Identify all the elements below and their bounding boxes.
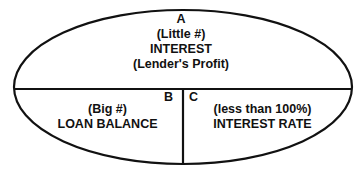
section-b-loan-balance: (Big #) LOAN BALANCE (40, 102, 175, 132)
section-b-subtitle: (Big #) (40, 102, 175, 117)
section-b-title: LOAN BALANCE (40, 117, 175, 132)
section-a-title: INTEREST (0, 42, 362, 57)
section-c-interest-rate: (less than 100%) INTEREST RATE (195, 102, 330, 132)
section-c-title: INTEREST RATE (195, 117, 330, 132)
section-a-letter: A (0, 12, 362, 27)
section-a-subtitle: (Little #) (0, 27, 362, 42)
section-c-subtitle: (less than 100%) (195, 102, 330, 117)
section-a-interest: A (Little #) INTEREST (Lender's Profit) (0, 12, 362, 72)
section-a-note: (Lender's Profit) (0, 57, 362, 72)
